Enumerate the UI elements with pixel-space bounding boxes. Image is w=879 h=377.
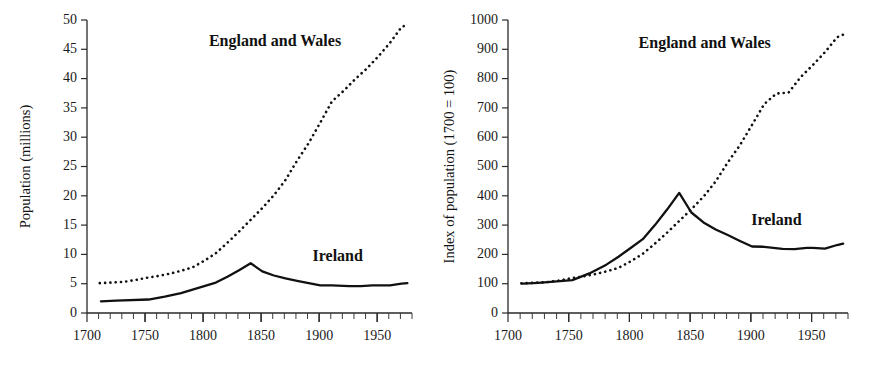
series-line-ireland (523, 193, 844, 284)
y-tick-label-50: 50 (63, 12, 77, 27)
x-tick-label-1950: 1950 (798, 328, 826, 343)
y-tick-label-500: 500 (477, 158, 498, 173)
y-axis-title: Index of population (1700 = 100) (441, 69, 458, 263)
y-tick-label-100: 100 (477, 275, 498, 290)
series-label-ireland: Ireland (751, 211, 801, 228)
y-tick-label-900: 900 (477, 41, 498, 56)
x-tick-label-1850: 1850 (676, 328, 704, 343)
y-tick-label-25: 25 (63, 158, 77, 173)
x-tick-label-1700: 1700 (73, 328, 101, 343)
series-line-ireland (101, 263, 407, 301)
y-tick-label-1000: 1000 (470, 12, 498, 27)
series-group: England and WalesIreland (521, 34, 843, 284)
y-tick-label-800: 800 (477, 70, 498, 85)
series-line-england-and-wales (521, 35, 843, 284)
series-group: England and WalesIreland (100, 25, 408, 302)
x-tick-label-1800: 1800 (189, 328, 217, 343)
y-tick-label-45: 45 (63, 41, 77, 56)
axis-lines (87, 20, 412, 313)
y-tick-label-35: 35 (63, 100, 77, 115)
y-tick-label-5: 5 (70, 275, 77, 290)
y-tick-label-0: 0 (70, 305, 77, 320)
figure-root: 0510152025303540455017001750180018501900… (0, 0, 879, 377)
y-tick-label-0: 0 (491, 305, 498, 320)
axes-group: 0100200300400500600700800900100017001750… (441, 12, 848, 343)
y-axis-title: Population (millions) (17, 105, 34, 229)
x-tick-label-1900: 1900 (305, 328, 333, 343)
series-line-england-and-wales (100, 25, 408, 283)
series-label-england-and-wales: England and Wales (209, 32, 341, 50)
y-tick-label-600: 600 (477, 129, 498, 144)
x-tick-label-1750: 1750 (555, 328, 583, 343)
y-tick-label-200: 200 (477, 246, 498, 261)
y-tick-label-700: 700 (477, 100, 498, 115)
y-tick-label-10: 10 (63, 246, 77, 261)
population-index-chart: 0100200300400500600700800900100017001750… (440, 0, 879, 377)
x-tick-label-1900: 1900 (737, 328, 765, 343)
x-tick-label-1950: 1950 (363, 328, 391, 343)
y-tick-label-300: 300 (477, 217, 498, 232)
chart-panel-right: 0100200300400500600700800900100017001750… (440, 0, 879, 377)
x-tick-label-1750: 1750 (131, 328, 159, 343)
chart-panel-left: 0510152025303540455017001750180018501900… (0, 0, 440, 377)
axis-lines (508, 20, 848, 313)
series-label-england-and-wales: England and Wales (639, 34, 771, 52)
axes-group: 0510152025303540455017001750180018501900… (17, 12, 412, 343)
y-tick-label-40: 40 (63, 70, 77, 85)
y-tick-label-30: 30 (63, 129, 77, 144)
x-tick-label-1850: 1850 (247, 328, 275, 343)
x-tick-label-1700: 1700 (494, 328, 522, 343)
y-tick-label-20: 20 (63, 188, 77, 203)
series-label-ireland: Ireland (313, 247, 363, 264)
x-tick-label-1800: 1800 (615, 328, 643, 343)
y-tick-label-400: 400 (477, 188, 498, 203)
y-tick-label-15: 15 (63, 217, 77, 232)
population-millions-chart: 0510152025303540455017001750180018501900… (0, 0, 440, 377)
